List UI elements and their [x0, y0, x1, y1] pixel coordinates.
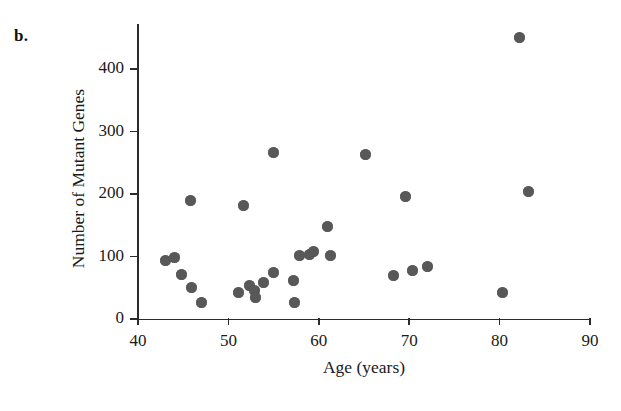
data-point — [497, 287, 508, 298]
data-point — [289, 297, 300, 308]
data-point — [238, 200, 249, 211]
figure-panel-b: b. 0100200300400 405060708090 Number of … — [0, 0, 621, 411]
y-axis-title: Number of Mutant Genes — [68, 34, 89, 324]
y-tick-300 — [130, 131, 137, 133]
data-point — [258, 277, 269, 288]
y-tick-100 — [130, 256, 137, 258]
x-tick-label-40: 40 — [108, 331, 168, 351]
scatter-plot: 0100200300400 405060708090 Number of Mut… — [0, 0, 621, 411]
data-point — [360, 149, 371, 160]
data-point — [407, 265, 418, 276]
data-point — [268, 147, 279, 158]
data-point — [250, 292, 261, 303]
y-axis-line — [137, 24, 139, 320]
x-tick-60 — [318, 318, 320, 325]
data-point — [233, 287, 244, 298]
data-point — [176, 269, 187, 280]
data-point — [523, 186, 534, 197]
data-point — [169, 252, 180, 263]
x-axis-line — [137, 319, 591, 321]
data-point — [514, 32, 525, 43]
x-tick-90 — [589, 318, 591, 325]
data-point — [186, 282, 197, 293]
data-point — [308, 246, 319, 257]
data-point — [185, 195, 196, 206]
x-tick-label-50: 50 — [198, 331, 258, 351]
x-tick-label-90: 90 — [560, 331, 620, 351]
data-point — [268, 267, 279, 278]
x-tick-label-70: 70 — [379, 331, 439, 351]
y-tick-400 — [130, 68, 137, 70]
data-point — [325, 250, 336, 261]
x-tick-label-80: 80 — [470, 331, 530, 351]
y-tick-200 — [130, 193, 137, 195]
data-point — [388, 270, 399, 281]
x-tick-70 — [408, 318, 410, 325]
data-point — [196, 297, 207, 308]
x-tick-40 — [137, 318, 139, 325]
y-tick-0 — [130, 318, 137, 320]
x-axis-title: Age (years) — [137, 357, 591, 378]
data-point — [422, 261, 433, 272]
x-tick-80 — [499, 318, 501, 325]
x-tick-label-60: 60 — [289, 331, 349, 351]
data-point — [322, 221, 333, 232]
data-point — [400, 191, 411, 202]
data-point — [288, 275, 299, 286]
x-tick-50 — [228, 318, 230, 325]
